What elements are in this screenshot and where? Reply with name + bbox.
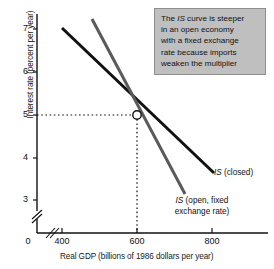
x-axis-title: Real GDP (billions of 1986 dollars per y… [60,252,213,261]
is-closed-label-italic: IS [214,168,222,177]
x-tick-label-0: 0 [13,236,43,246]
x-tick-label-400: 400 [47,236,77,246]
equilibrium-point-marker [133,111,141,119]
callout-is-emphasis: IS [177,14,185,23]
is-closed-curve-label: IS (closed) [214,168,253,179]
y-tick-label-3: 3 [12,194,28,204]
callout-line-1: The IS curve is steeper [161,13,260,24]
is-open-label-rest: (open, fixed [183,196,228,205]
is-open-label-line2: exchange rate) [175,207,230,216]
callout-box: The IS curve is steeper in an open econo… [154,8,266,75]
x-tick-label-600: 600 [122,236,152,246]
y-axis-title: Interest rate (percent per year) [26,0,35,145]
callout-line-4: rate because imports [161,47,260,58]
callout-line-3: with a fixed exchange [161,35,260,46]
callout-line-5: weaken the multiplier [161,58,260,69]
is-closed-label-rest: (closed) [222,168,253,177]
is-open-curve-label: IS (open, fixedexchange rate) [160,196,244,217]
economics-figure: 7 6 5 4 3 0 400 600 800 Interest rate (p… [0,0,274,269]
y-tick-label-4: 4 [12,152,28,162]
callout-line-2: in an open economy [161,24,260,35]
x-tick-label-800: 800 [197,236,227,246]
